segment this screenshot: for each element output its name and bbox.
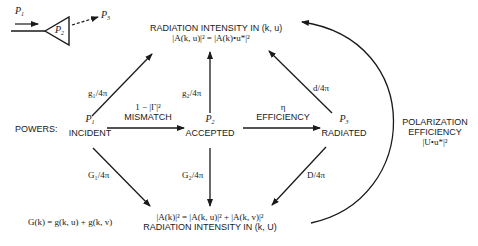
incident-symbol: P1 [70, 113, 110, 125]
D-label: D/4π [307, 170, 325, 180]
top-node-formula: |A(k, u)|² = |A(k)•u*|² [150, 33, 272, 43]
radiated-symbol: P3 [324, 113, 364, 125]
g1-label: g₁/4π [88, 88, 107, 98]
gain-equation: G(k) = g(k, u) + g(k, v) [28, 217, 112, 227]
incident-label: INCIDENT [60, 128, 120, 138]
mismatch-label: MISMATCH [113, 112, 183, 122]
polarization-line1: POLARIZATION [395, 117, 475, 127]
d-label: d/4π [313, 83, 329, 93]
inset-p3-label: P3 [101, 9, 110, 21]
efficiency-formula: η [248, 102, 318, 112]
mismatch-formula: 1 − |Γ|² [113, 102, 183, 112]
efficiency-label: EFFICIENCY [248, 112, 318, 122]
inset-p2-label: P2 [55, 24, 64, 36]
bottom-node-formula: |A(k)|² = |A(k, u)|² + |A(k, v)|² [140, 212, 280, 222]
inset-p1-label: P1 [15, 5, 24, 17]
G1-label: G₁/4π [88, 170, 109, 180]
top-node-title: RADIATION INTENSITY IN (k, u) [150, 23, 272, 33]
polarization-line2: EFFICIENCY [395, 127, 475, 137]
polarization-formula: |U•u*|² [395, 137, 475, 147]
radiated-label: RADIATED [314, 128, 374, 138]
g2-label: g₂/4π [182, 88, 201, 98]
bottom-node-title: RADIATION INTENSITY IN (k, U) [140, 222, 280, 232]
powers-label: POWERS: [15, 124, 58, 134]
accepted-symbol: P2 [190, 113, 230, 125]
accepted-label: ACCEPTED [180, 128, 240, 138]
G2-label: G₂/4π [182, 170, 203, 180]
